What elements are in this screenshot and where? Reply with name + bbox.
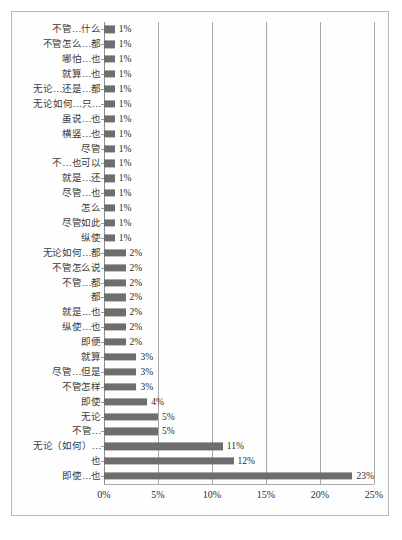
category-label: 不管怎么…都 <box>15 39 101 49</box>
bar-value-label: 5% <box>162 426 175 436</box>
table-row: 不管…5% <box>0 424 402 439</box>
bar-value-label: 1% <box>119 188 132 198</box>
bar <box>104 115 115 122</box>
table-row: 无论如何…都2% <box>0 245 402 260</box>
bar <box>104 294 126 301</box>
bar <box>104 264 126 271</box>
category-label: 就是…也 <box>15 307 101 317</box>
bar-value-label: 2% <box>130 278 143 288</box>
table-row: 不…也可以1% <box>0 156 402 171</box>
table-row: 就算3% <box>0 350 402 365</box>
table-row: 尽管如此1% <box>0 216 402 231</box>
category-label: 怎么 <box>15 203 101 213</box>
table-row: 尽管…但是3% <box>0 364 402 379</box>
table-row: 无论（如何）…11% <box>0 439 402 454</box>
bar <box>104 190 115 197</box>
category-label: 不管…都 <box>15 278 101 288</box>
bar <box>104 175 115 182</box>
table-row: 不管怎么…都1% <box>0 37 402 52</box>
bar-value-label: 3% <box>140 367 153 377</box>
table-row: 即使4% <box>0 394 402 409</box>
table-row: 就是…还1% <box>0 171 402 186</box>
category-label: 无论如何…都 <box>15 248 101 258</box>
category-label: 不…也可以 <box>15 158 101 168</box>
bar-value-label: 1% <box>119 39 132 49</box>
category-label: 无论…还是…都 <box>15 84 101 94</box>
bar-value-label: 23% <box>356 471 373 481</box>
category-label: 纵使…也 <box>15 322 101 332</box>
table-row: 尽管…也1% <box>0 186 402 201</box>
table-row: 无论5% <box>0 409 402 424</box>
category-label: 尽管…但是 <box>15 367 101 377</box>
table-row: 横竖…也1% <box>0 126 402 141</box>
category-label: 无论如何…只… <box>15 99 101 109</box>
category-label: 就是…还 <box>15 173 101 183</box>
category-label: 都 <box>15 292 101 302</box>
category-label: 纵使 <box>15 233 101 243</box>
bar <box>104 85 115 92</box>
category-label: 就算…也 <box>15 69 101 79</box>
table-row: 怎么1% <box>0 201 402 216</box>
bar-value-label: 2% <box>130 263 143 273</box>
category-label: 即便 <box>15 337 101 347</box>
category-label: 无论 <box>15 412 101 422</box>
bar <box>104 458 234 465</box>
category-label: 也 <box>15 456 101 466</box>
bar <box>104 339 126 346</box>
bar-value-label: 5% <box>162 412 175 422</box>
bar-value-label: 1% <box>119 69 132 79</box>
bar <box>104 26 115 33</box>
table-row: 无论如何…只…1% <box>0 96 402 111</box>
table-row: 也12% <box>0 454 402 469</box>
category-label: 即使…也 <box>15 471 101 481</box>
bar <box>104 130 115 137</box>
bar-value-label: 12% <box>238 456 255 466</box>
bar <box>104 219 115 226</box>
category-label: 不管怎样 <box>15 382 101 392</box>
bar-rows: 不管…什么1%不管怎么…都1%哪怕…也1%就算…也1%无论…还是…都1%无论如何… <box>0 22 402 484</box>
bar <box>104 413 158 420</box>
category-label: 虽说…也 <box>15 114 101 124</box>
category-label: 不管… <box>15 426 101 436</box>
bar-value-label: 2% <box>130 292 143 302</box>
table-row: 不管怎么说2% <box>0 260 402 275</box>
table-row: 即使…也23% <box>0 469 402 484</box>
category-label: 即使 <box>15 397 101 407</box>
table-row: 不管怎样3% <box>0 379 402 394</box>
bar <box>104 41 115 48</box>
bar <box>104 160 115 167</box>
bar-value-label: 1% <box>119 54 132 64</box>
bar <box>104 309 126 316</box>
bar-value-label: 1% <box>119 114 132 124</box>
x-tick-label: 20% <box>300 489 340 500</box>
bar <box>104 368 136 375</box>
bar-value-label: 1% <box>119 218 132 228</box>
chart-page: 不管…什么1%不管怎么…都1%哪怕…也1%就算…也1%无论…还是…都1%无论如何… <box>0 0 402 540</box>
bar <box>104 398 147 405</box>
bar <box>104 279 126 286</box>
bar <box>104 443 223 450</box>
table-row: 就是…也2% <box>0 305 402 320</box>
x-tick-label: 10% <box>192 489 232 500</box>
bar-value-label: 2% <box>130 322 143 332</box>
bar <box>104 428 158 435</box>
x-tick-label: 0% <box>84 489 124 500</box>
table-row: 不管…什么1% <box>0 22 402 37</box>
bar-value-label: 1% <box>119 84 132 94</box>
table-row: 哪怕…也1% <box>0 52 402 67</box>
bar-value-label: 1% <box>119 203 132 213</box>
bar <box>104 56 115 63</box>
bar-value-label: 11% <box>227 441 244 451</box>
bar-value-label: 1% <box>119 158 132 168</box>
table-row: 无论…还是…都1% <box>0 82 402 97</box>
bar <box>104 249 126 256</box>
table-row: 尽管1% <box>0 141 402 156</box>
bar <box>104 473 352 480</box>
table-row: 虽说…也1% <box>0 111 402 126</box>
category-label: 尽管…也 <box>15 188 101 198</box>
category-label: 横竖…也 <box>15 129 101 139</box>
bar-value-label: 1% <box>119 129 132 139</box>
bar-value-label: 1% <box>119 173 132 183</box>
category-label: 就算 <box>15 352 101 362</box>
category-label: 尽管如此 <box>15 218 101 228</box>
